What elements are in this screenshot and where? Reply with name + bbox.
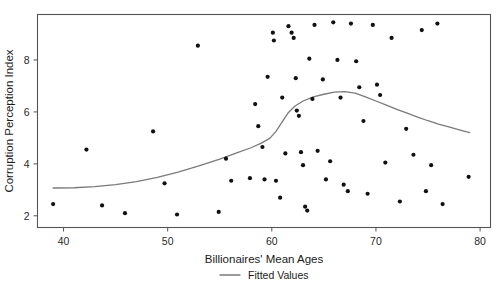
scatter-point [292,36,296,40]
scatter-point [283,151,287,155]
x-tick-label: 70 [370,235,382,247]
legend-label-fitted-values: Fitted Values [248,269,309,281]
scatter-point [321,77,325,81]
scatter-point [84,147,88,151]
plot-frame [38,15,491,228]
x-axis-ticks: 4050607080 [58,228,486,247]
scatter-point [307,57,311,61]
y-axis-title: Corruption Perception Index [3,49,15,192]
y-tick-label: 2 [24,210,30,222]
scatter-point [338,96,342,100]
scatter-point [297,114,301,118]
scatter-point [383,160,387,164]
scatter-point [375,83,379,87]
scatter-point [354,59,358,63]
x-tick-label: 80 [474,235,486,247]
scatter-point [349,21,353,25]
scatter-point [357,85,361,89]
scatter-point [441,202,445,206]
scatter-point [371,23,375,27]
scatter-point [361,119,365,123]
plot-frame-group [38,15,491,228]
scatter-point [274,179,278,183]
scatter-point [196,44,200,48]
scatter-point [262,177,266,181]
y-tick-label: 8 [24,54,30,66]
scatter-point [51,202,55,206]
scatter-point [299,150,303,154]
scatter-point [335,58,339,62]
scatter-point [342,183,346,187]
scatter-point [328,159,332,163]
scatter-point [424,189,428,193]
scatter-point [266,75,270,79]
x-tick-label: 40 [58,235,70,247]
scatter-point [429,163,433,167]
scatter-point [100,203,104,207]
scatter-point [248,176,252,180]
scatter-point [305,209,309,213]
scatter-point [253,102,257,106]
x-axis-title: Billionaires' Mean Ages [205,253,324,265]
y-tick-label: 6 [24,106,30,118]
scatter-plot-canvas: 4050607080 2468 Billionaires' Mean Ages … [0,0,500,295]
scatter-point [303,205,307,209]
scatter-point [294,76,298,80]
scatter-point [378,93,382,97]
scatter-point [324,177,328,181]
x-tick-label: 50 [162,235,174,247]
scatter-point [310,97,314,101]
scatter-point [290,31,294,35]
scatter-point [229,179,233,183]
scatter-point [366,192,370,196]
scatter-point [278,196,282,200]
scatter-points-group [51,20,471,216]
scatter-point [175,212,179,216]
y-axis-ticks: 2468 [24,54,38,222]
scatter-point [256,124,260,128]
scatter-point [420,28,424,32]
scatter-point [316,149,320,153]
scatter-point [467,175,471,179]
scatter-point [301,163,305,167]
scatter-point [224,157,228,161]
chart-figure: 4050607080 2468 Billionaires' Mean Ages … [0,0,500,295]
scatter-point [151,129,155,133]
scatter-point [398,199,402,203]
scatter-point [435,21,439,25]
scatter-point [286,24,290,28]
scatter-point [217,210,221,214]
scatter-point [162,181,166,185]
scatter-point [123,211,127,215]
scatter-point [411,153,415,157]
scatter-point [346,189,350,193]
scatter-point [271,31,275,35]
x-tick-label: 60 [266,235,278,247]
y-tick-label: 4 [24,158,30,170]
fitted-values-line-group [53,92,470,188]
fitted-values-line [53,92,470,188]
scatter-point [272,38,276,42]
scatter-point [404,127,408,131]
scatter-point [260,145,264,149]
scatter-point [295,109,299,113]
scatter-point [280,96,284,100]
scatter-point [312,23,316,27]
legend: Fitted Values [220,269,309,281]
scatter-point [331,20,335,24]
scatter-point [389,36,393,40]
